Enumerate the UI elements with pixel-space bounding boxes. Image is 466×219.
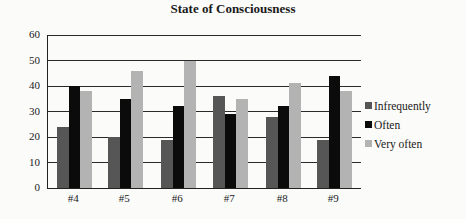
legend-swatch-icon: [365, 121, 372, 128]
bar-infrequently-4: [57, 127, 69, 188]
legend-swatch-icon: [365, 102, 372, 109]
legend-item: Infrequently: [365, 96, 431, 115]
y-tick-label: 0: [0, 182, 40, 193]
bar-infrequently-7: [213, 96, 225, 188]
x-tick-label: #4: [53, 192, 93, 204]
bar-infrequently-9: [317, 140, 329, 188]
bar-very-often-7: [236, 99, 248, 188]
bar-infrequently-5: [108, 137, 120, 188]
y-tick-label: 60: [0, 29, 40, 40]
legend: InfrequentlyOftenVery often: [365, 96, 431, 153]
legend-swatch-icon: [365, 140, 372, 147]
gridline: [48, 35, 361, 36]
legend-label: Often: [374, 119, 400, 131]
legend-item: Very often: [365, 134, 431, 153]
legend-label: Very often: [374, 138, 422, 150]
x-tick-label: #9: [313, 192, 353, 204]
bar-often-7: [225, 114, 237, 188]
plot-area: [47, 35, 361, 189]
bar-often-5: [120, 99, 132, 188]
gridline: [48, 111, 361, 112]
bar-very-often-5: [131, 71, 143, 188]
bar-often-4: [69, 86, 81, 188]
bar-very-often-8: [289, 83, 301, 188]
gridline: [48, 162, 361, 163]
gridline: [48, 60, 361, 61]
y-tick-label: 40: [0, 80, 40, 91]
bar-often-6: [173, 106, 185, 188]
bar-infrequently-8: [266, 117, 278, 188]
bar-very-often-9: [340, 91, 352, 188]
legend-item: Often: [365, 115, 431, 134]
x-tick-label: #8: [262, 192, 302, 204]
gridline: [48, 86, 361, 87]
chart-title: State of Consciousness: [0, 1, 466, 17]
y-tick-label: 50: [0, 55, 40, 66]
x-tick-label: #5: [104, 192, 144, 204]
y-tick-label: 20: [0, 131, 40, 142]
bar-infrequently-6: [161, 140, 173, 188]
legend-label: Infrequently: [374, 100, 431, 112]
bar-very-often-6: [184, 61, 196, 189]
x-tick-label: #7: [209, 192, 249, 204]
y-tick-label: 10: [0, 157, 40, 168]
gridline: [48, 137, 361, 138]
bar-often-8: [278, 106, 290, 188]
bar-often-9: [329, 76, 341, 188]
y-tick-label: 30: [0, 106, 40, 117]
bar-very-often-4: [80, 91, 92, 188]
x-tick-label: #6: [157, 192, 197, 204]
